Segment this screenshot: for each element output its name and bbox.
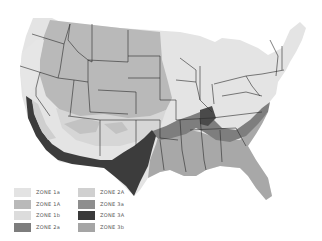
legend-label: ZONE 3b xyxy=(100,223,124,232)
swatch-zone-3a xyxy=(78,200,95,209)
legend-label: ZONE 3a xyxy=(100,200,124,209)
swatch-zone-1b xyxy=(14,211,31,220)
swatch-zone-1A xyxy=(14,200,31,209)
legend-label: ZONE 2A xyxy=(100,188,125,197)
legend-label: ZONE 3A xyxy=(100,211,125,220)
swatch-zone-2a xyxy=(14,223,31,232)
swatch-zone-3b xyxy=(78,223,95,232)
swatch-zone-2A xyxy=(78,188,95,197)
legend-label: ZONE 1b xyxy=(36,211,60,220)
swatch-zone-1a xyxy=(14,188,31,197)
legend-label: ZONE 1a xyxy=(36,188,60,197)
legend-label: ZONE 2a xyxy=(36,223,60,232)
map-legend: ZONE 1a ZONE 1A ZONE 1b ZONE 2a ZONE 2A … xyxy=(14,187,164,237)
legend-label: ZONE 1A xyxy=(36,200,61,209)
swatch-zone-3A xyxy=(78,211,95,220)
